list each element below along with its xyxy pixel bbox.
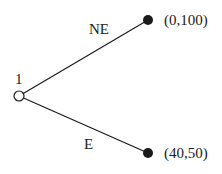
- payoff-label-ne: (0,100): [164, 13, 208, 28]
- terminal-node-ne: [143, 15, 153, 25]
- game-tree-diagram: 1 NE E (0,100) (40,50): [0, 0, 222, 174]
- root-decision-node: [14, 91, 24, 101]
- branch-ne-edge: [19, 20, 148, 96]
- action-label-ne: NE: [89, 22, 109, 37]
- action-label-e: E: [84, 137, 93, 152]
- root-player-label: 1: [15, 72, 23, 87]
- payoff-label-e: (40,50): [164, 146, 208, 161]
- terminal-node-e: [143, 148, 153, 158]
